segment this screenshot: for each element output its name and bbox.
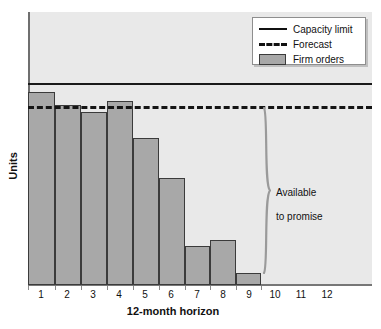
bar-month-5: [133, 138, 159, 285]
chart-figure: Units 1 2 3 4 5 6 7 8 9 10 11 12 12-mont…: [0, 0, 381, 329]
available-to-promise-annotation: Available to promise: [276, 175, 323, 223]
x-tick-label-8: 8: [210, 289, 236, 300]
bar-month-2: [55, 105, 81, 285]
bar-month-6: [159, 178, 185, 285]
x-tick-label-5: 5: [132, 289, 158, 300]
filled-swatch-key-icon: [258, 53, 288, 65]
bar-month-3: [81, 112, 107, 285]
bar-month-7: [185, 246, 210, 285]
annotation-line-1: Available: [276, 187, 316, 198]
solid-line-key-icon: [258, 23, 288, 35]
bar-month-1: [28, 92, 55, 285]
legend-item-capacity-limit: Capacity limit: [258, 22, 361, 36]
x-tick-label-11: 11: [288, 289, 314, 300]
curly-brace-icon: [262, 107, 271, 274]
legend-item-forecast: Forecast: [258, 37, 361, 51]
x-tick-label-10: 10: [262, 289, 288, 300]
x-tick-label-12: 12: [314, 289, 340, 300]
x-tick-label-6: 6: [158, 289, 184, 300]
bar-month-4: [107, 101, 133, 285]
legend-label-capacity-limit: Capacity limit: [293, 24, 352, 35]
bar-month-9: [236, 273, 261, 285]
dashed-line-key-icon: [258, 38, 288, 50]
legend-label-forecast: Forecast: [293, 39, 332, 50]
x-axis-title: 12-month horizon: [28, 305, 318, 317]
x-tick-label-4: 4: [106, 289, 132, 300]
x-tick-label-7: 7: [184, 289, 210, 300]
annotation-line-2: to promise: [276, 211, 323, 222]
forecast-line: [28, 106, 372, 109]
x-tick-label-3: 3: [80, 289, 106, 300]
bar-month-8: [210, 240, 236, 285]
legend-item-firm-orders: Firm orders: [258, 52, 361, 66]
x-tick-label-2: 2: [54, 289, 80, 300]
legend-label-firm-orders: Firm orders: [293, 54, 344, 65]
capacity-limit-line: [28, 83, 372, 85]
chart-legend: Capacity limit Forecast Firm orders: [252, 17, 366, 65]
x-tick-label-1: 1: [28, 289, 54, 300]
x-tick-label-9: 9: [236, 289, 262, 300]
